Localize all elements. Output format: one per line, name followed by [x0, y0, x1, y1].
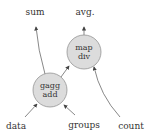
edge-agg-to-map — [61, 66, 69, 77]
node-agg-line2: add — [42, 90, 57, 99]
node-map-line2: div — [78, 52, 91, 61]
label-count: count — [118, 121, 144, 131]
label-sum: sum — [26, 7, 45, 17]
label-data: data — [6, 121, 27, 131]
label-avg: avg. — [75, 7, 94, 17]
node-agg-line1: gagg — [40, 81, 60, 90]
node-map-line1: map — [75, 43, 92, 52]
label-groups: groups — [68, 120, 100, 130]
node-map: map div — [67, 35, 101, 69]
edge-data-to-agg — [25, 104, 37, 117]
edge-agg-to-sum — [36, 27, 45, 74]
edge-count-to-map — [94, 67, 120, 117]
edge-groups-to-agg — [64, 105, 75, 115]
node-agg: gagg add — [33, 73, 67, 107]
dataflow-diagram: gagg add map div sum avg. data groups co… — [0, 0, 152, 137]
